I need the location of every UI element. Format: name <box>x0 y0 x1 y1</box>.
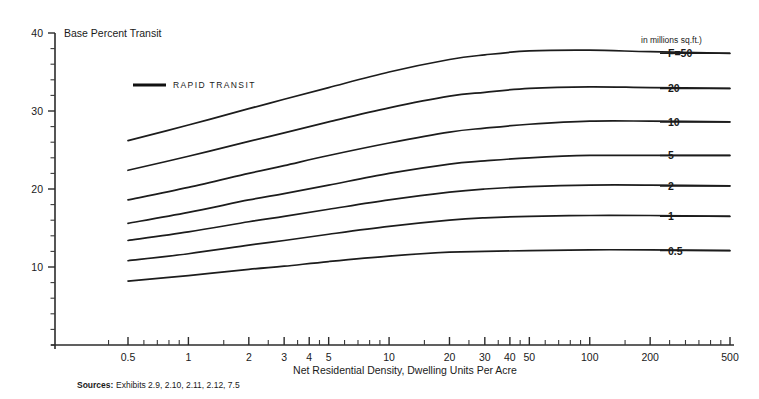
page-title: Base Percent Transit <box>64 27 162 39</box>
sources-label: Sources: <box>77 380 114 390</box>
series-label: 20 <box>668 82 680 94</box>
x-tick-label: 30 <box>479 351 491 363</box>
x-tick-label: 3 <box>281 351 287 363</box>
x-tick-label: 2 <box>246 351 252 363</box>
x-tick-label: 200 <box>641 351 659 363</box>
transit-density-line-chart: 10203040 0.5123451020304050100200500 F=5… <box>0 0 759 399</box>
sources-text: Exhibits 2.9, 2.10, 2.11, 2.12, 7.5 <box>116 380 240 390</box>
y-tick-label: 30 <box>31 105 43 117</box>
units-note: in millions sq.ft.) <box>641 35 702 45</box>
x-tick-label: 20 <box>444 351 456 363</box>
series-label: 5 <box>668 149 674 161</box>
x-tick-label: 40 <box>504 351 516 363</box>
x-tick-label: 1 <box>185 351 191 363</box>
series-label: 2 <box>668 180 674 192</box>
series-label: F=50 <box>668 47 692 59</box>
y-tick-label: 10 <box>31 261 43 273</box>
x-tick-label: 500 <box>721 351 739 363</box>
y-tick-label: 20 <box>31 183 43 195</box>
x-tick-label: 0.5 <box>121 351 136 363</box>
x-tick-label: 5 <box>326 351 332 363</box>
series-label: 1 <box>668 210 674 222</box>
x-tick-label: 50 <box>523 351 535 363</box>
series-label: 10 <box>668 116 680 128</box>
legend-label-rapid-transit: RAPID TRANSIT <box>173 80 256 90</box>
x-tick-label: 4 <box>306 351 312 363</box>
chart-container: 10203040 0.5123451020304050100200500 F=5… <box>0 0 759 399</box>
x-tick-label: 10 <box>383 351 395 363</box>
x-tick-label: 100 <box>581 351 599 363</box>
chart-background <box>0 0 759 399</box>
series-label: 0.5 <box>668 245 683 257</box>
x-axis-title: Net Residential Density, Dwelling Units … <box>293 364 517 376</box>
y-tick-label: 40 <box>31 27 43 39</box>
